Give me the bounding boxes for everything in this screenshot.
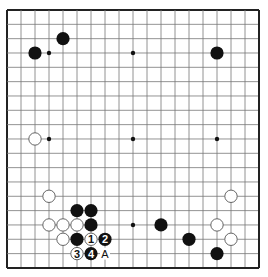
white-stone[interactable] (57, 233, 69, 245)
move-number-label: 2 (102, 233, 108, 245)
black-stone[interactable] (210, 247, 223, 260)
star-point (131, 51, 135, 55)
black-stone-disc (210, 247, 223, 260)
black-stone-disc (70, 233, 83, 246)
white-stone-move-1[interactable]: 1 (85, 233, 97, 245)
white-stone-disc (225, 233, 237, 245)
white-stone-move-3[interactable]: 3 (71, 247, 83, 259)
black-stone[interactable] (154, 218, 167, 231)
white-stone[interactable] (211, 219, 223, 231)
white-stone[interactable] (43, 219, 55, 231)
star-point (131, 223, 135, 227)
black-stone-disc (182, 233, 195, 246)
move-number-label: 4 (88, 248, 95, 260)
black-stone[interactable] (56, 32, 69, 45)
white-stone-disc (43, 190, 55, 202)
black-stone-disc (210, 46, 223, 59)
white-stone-disc (211, 219, 223, 231)
move-number-label: 1 (88, 233, 94, 245)
move-number-label: 3 (74, 248, 80, 260)
black-stone-disc (84, 204, 97, 217)
black-stone-move-2[interactable]: 2 (98, 233, 111, 246)
black-stone-disc (84, 218, 97, 231)
white-stone[interactable] (225, 190, 237, 202)
white-stone[interactable] (71, 219, 83, 231)
black-stone-move-4[interactable]: 4 (84, 247, 97, 260)
white-stone-disc (71, 219, 83, 231)
white-stone[interactable] (225, 233, 237, 245)
white-stone[interactable] (29, 133, 41, 145)
black-stone[interactable] (70, 204, 83, 217)
star-point (47, 137, 51, 141)
black-stone-disc (154, 218, 167, 231)
star-point (47, 51, 51, 55)
white-stone-disc (57, 233, 69, 245)
white-stone[interactable] (57, 219, 69, 231)
white-stone-disc (57, 219, 69, 231)
star-point (215, 137, 219, 141)
black-stone[interactable] (182, 233, 195, 246)
white-stone-disc (43, 219, 55, 231)
black-stone[interactable] (210, 46, 223, 59)
black-stone-disc (70, 204, 83, 217)
black-stone[interactable] (84, 218, 97, 231)
black-stone[interactable] (28, 46, 41, 59)
black-stone[interactable] (70, 233, 83, 246)
white-stone-disc (225, 190, 237, 202)
point-marker-label: A (101, 248, 109, 260)
star-point (131, 137, 135, 141)
go-board: 1234 A (0, 0, 268, 277)
white-stone[interactable] (43, 190, 55, 202)
black-stone-disc (56, 32, 69, 45)
markers-layer: A (100, 248, 110, 260)
black-stone-disc (28, 46, 41, 59)
white-stone-disc (29, 133, 41, 145)
black-stone[interactable] (84, 204, 97, 217)
go-board-svg: 1234 A (0, 0, 268, 277)
